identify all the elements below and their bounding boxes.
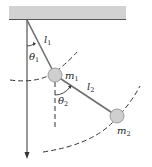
label-m2: m2 [117, 125, 131, 138]
label-theta2: θ2 [58, 95, 68, 108]
label-theta1: θ1 [29, 51, 39, 64]
label-l2: l2 [87, 81, 94, 94]
theta1-arc [27, 44, 34, 46]
mass-1 [48, 68, 62, 82]
downward-arrow-icon [25, 152, 30, 159]
ceiling-support [9, 6, 126, 19]
mass-2 [110, 109, 124, 123]
label-l1: l1 [44, 34, 51, 47]
theta2-arc [55, 87, 70, 95]
theta1-arrow-icon [33, 42, 36, 46]
label-m1: m1 [65, 70, 79, 83]
rod-2 [55, 75, 117, 116]
rod-1 [27, 20, 55, 75]
double-pendulum-diagram: l1 θ1 m1 l2 θ2 m2 [0, 0, 152, 167]
